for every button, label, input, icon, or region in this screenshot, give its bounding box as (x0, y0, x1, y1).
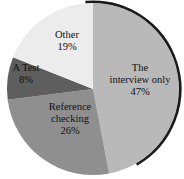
slice-label: Other19% (55, 29, 79, 52)
pie-chart: Theinterview only47%Referencechecking26%… (0, 0, 184, 179)
pie-slices (7, 3, 179, 175)
